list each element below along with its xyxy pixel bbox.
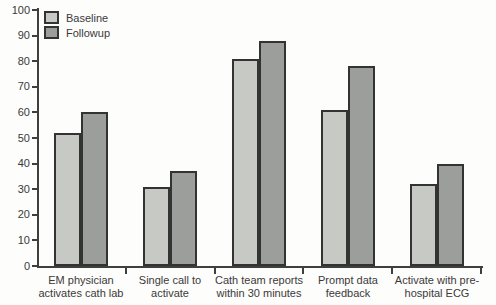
y-axis-tick-label: 40: [2, 157, 30, 170]
y-axis-tick: [32, 265, 37, 267]
bar-followup-4: [437, 164, 464, 266]
legend-item-baseline: Baseline: [44, 10, 110, 25]
bar-baseline-0: [54, 133, 81, 266]
y-axis-tick-label: 10: [2, 234, 30, 247]
bar-baseline-3: [321, 110, 348, 266]
y-axis-tick-label: 100: [2, 4, 30, 17]
y-axis-tick-label: 30: [2, 183, 30, 196]
y-axis-tick-label: 70: [2, 80, 30, 93]
bar-baseline-2: [232, 59, 259, 266]
y-axis-tick-label: 80: [2, 55, 30, 68]
bar-followup-1: [170, 171, 197, 266]
bar-followup-3: [348, 66, 375, 266]
y-axis-tick-label: 0: [2, 260, 30, 273]
legend-label: Baseline: [66, 12, 108, 24]
x-axis-line: [37, 266, 483, 268]
y-axis-tick: [32, 163, 37, 165]
y-axis-tick: [32, 137, 37, 139]
y-axis-tick-label: 90: [2, 29, 30, 42]
bar-followup-0: [81, 112, 108, 266]
legend: BaselineFollowup: [44, 10, 110, 40]
y-axis-tick: [32, 35, 37, 37]
y-axis-tick: [32, 86, 37, 88]
legend-item-followup: Followup: [44, 25, 110, 40]
bar-baseline-1: [143, 187, 170, 266]
bar-followup-2: [259, 41, 286, 266]
y-axis-tick: [32, 188, 37, 190]
y-axis-tick: [32, 239, 37, 241]
legend-label: Followup: [66, 27, 110, 39]
bar-chart: BaselineFollowup 0102030405060708090100E…: [0, 0, 496, 305]
legend-swatch-baseline: [44, 11, 59, 24]
y-axis-line: [37, 8, 39, 268]
y-axis-tick-label: 50: [2, 132, 30, 145]
bar-baseline-4: [410, 184, 437, 266]
y-axis-tick-label: 20: [2, 208, 30, 221]
x-axis-label-4: Activate with pre-hospital ECG: [382, 274, 492, 300]
y-axis-tick: [32, 214, 37, 216]
legend-swatch-followup: [44, 26, 59, 39]
y-axis-tick: [32, 9, 37, 11]
y-axis-tick-label: 60: [2, 106, 30, 119]
y-axis-tick: [32, 111, 37, 113]
y-axis-tick: [32, 60, 37, 62]
